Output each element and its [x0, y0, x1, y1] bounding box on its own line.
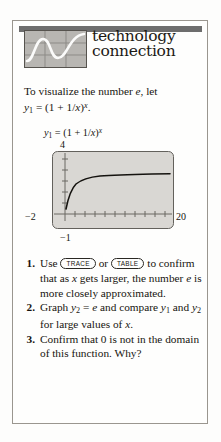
- y-axis-max-tick-label: 4: [60, 139, 65, 150]
- graph-equation-label: y1 = (1 + 1/x)x: [44, 126, 102, 140]
- instruction-list: 1. Use TRACE or TABLE to confirm that as…: [23, 256, 203, 361]
- list-item-number: 3.: [23, 332, 40, 347]
- list-item-number: 1.: [23, 256, 40, 271]
- list-item: 2. Graph y2 = e and compare y1 and y2 fo…: [23, 300, 203, 331]
- brand-line-2: connection: [92, 44, 175, 59]
- calculator-screen-plot: [52, 151, 174, 229]
- y-axis-min-tick-label: −1: [60, 232, 71, 243]
- brand-title: technology connection: [92, 29, 175, 59]
- x-axis-max-tick-label: 20: [176, 211, 186, 222]
- list-item-text: Confirm that 0 is not in the domain of t…: [40, 332, 203, 362]
- trace-key-button[interactable]: TRACE: [60, 258, 95, 269]
- intro-line-1: To visualize the number e, let: [24, 84, 200, 99]
- table-key-button[interactable]: TABLE: [111, 258, 145, 269]
- list-item: 1. Use TRACE or TABLE to confirm that as…: [23, 256, 203, 300]
- header: technology connection: [16, 24, 204, 78]
- graph-figure: y1 = (1 + 1/x)x 4 −1 −2 20: [24, 126, 204, 251]
- list-item-text: Use TRACE or TABLE to confirm that as x …: [40, 256, 203, 300]
- list-item: 3. Confirm that 0 is not in the domain o…: [23, 332, 203, 362]
- intro-line-2-formula: y1 = (1 + 1/x)x.: [24, 100, 200, 117]
- page-root: technology connection To visualize the n…: [0, 0, 221, 442]
- graphing-calculator-curve-icon: [24, 30, 87, 68]
- technology-connection-box: technology connection To visualize the n…: [12, 20, 208, 424]
- list-item-number: 2.: [23, 300, 40, 315]
- list-item-text: Graph y2 = e and compare y1 and y2 for l…: [40, 300, 203, 331]
- box-inner: technology connection To visualize the n…: [16, 24, 204, 420]
- intro-paragraph: To visualize the number e, let y1 = (1 +…: [24, 84, 200, 116]
- x-axis-min-tick-label: −2: [25, 211, 36, 222]
